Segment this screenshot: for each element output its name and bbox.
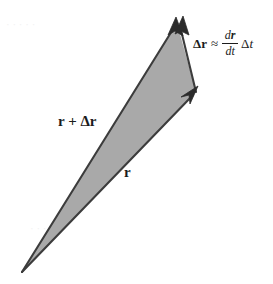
fraction-numerator: dr [224,29,237,42]
vector-line-r-plus-delta-r [22,26,175,272]
derivative-fraction: dr dt [222,29,238,57]
label-r: r [124,165,131,180]
numerator-variable: r [231,28,236,42]
fraction-denominator: dt [224,45,235,58]
time-variable: t [249,36,253,51]
label-equation-delta-r: Δr ≈ dr dt Δt [193,29,253,57]
approx-equal-sign: ≈ [210,37,219,50]
label-r-plus-delta-r: r + Δr [58,114,97,129]
vector-line-r [22,95,193,272]
denominator-variable: t [231,44,234,58]
equation-delta-t: Δt [241,37,253,50]
equation-lhs: Δr [193,37,207,50]
figure-root: · · · · · · · · r + Δr r Δr ≈ dr dt Δt [0,0,273,284]
triangle-fill [22,23,196,272]
